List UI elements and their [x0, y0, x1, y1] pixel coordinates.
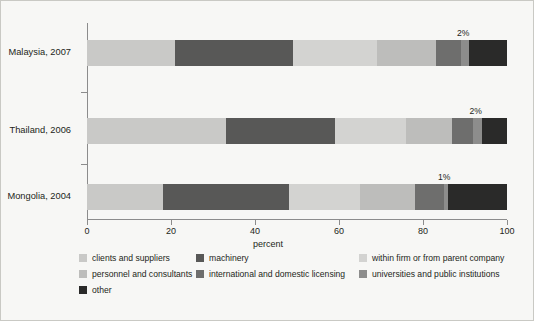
legend-swatch-icon: [196, 254, 204, 262]
bar-segment: [163, 184, 289, 210]
bar-segment: [406, 118, 452, 144]
y-tick: [81, 164, 87, 165]
x-tick: [171, 220, 172, 225]
x-tick-label: 20: [151, 227, 191, 236]
bar-segment: [87, 184, 163, 210]
bar-segment: [452, 118, 473, 144]
bar-segment: [461, 40, 469, 66]
legend-item: universities and public institutions: [359, 267, 504, 281]
x-tick: [423, 220, 424, 225]
bar-value-label: 1%: [438, 173, 450, 182]
legend-label: other: [92, 286, 112, 295]
bar-segment: [87, 40, 175, 66]
legend-column: machineryinternational and domestic lice…: [196, 251, 345, 283]
bar-segment: [226, 118, 335, 144]
legend-item: clients and suppliers: [79, 251, 192, 265]
bar-segment: [335, 118, 406, 144]
legend-label: within firm or from parent company: [372, 254, 504, 263]
bar-row: [87, 184, 507, 210]
x-tick-label: 80: [403, 227, 443, 236]
bar-segment: [377, 40, 436, 66]
chart-figure: Malaysia, 2007Thailand, 2006Mongolia, 20…: [0, 0, 534, 321]
legend-swatch-icon: [359, 254, 367, 262]
x-tick-label: 0: [67, 227, 107, 236]
bar-value-label: 2%: [457, 29, 469, 38]
legend-label: personnel and consultants: [92, 270, 192, 279]
legend-item: other: [79, 283, 192, 297]
bar-row: [87, 40, 507, 66]
bar-segment: [293, 40, 377, 66]
x-tick: [255, 220, 256, 225]
legend-item: machinery: [196, 251, 345, 265]
legend-label: clients and suppliers: [92, 254, 170, 263]
bar-row: [87, 118, 507, 144]
bar-segment: [482, 118, 507, 144]
legend-swatch-icon: [79, 286, 87, 294]
x-tick: [87, 220, 88, 225]
x-tick-label: 60: [319, 227, 359, 236]
bar-value-label: 2%: [470, 107, 482, 116]
legend-label: universities and public institutions: [372, 270, 500, 279]
legend-item: international and domestic licensing: [196, 267, 345, 281]
bar-segment: [469, 40, 507, 66]
bar-segment: [289, 184, 360, 210]
legend-item: personnel and consultants: [79, 267, 192, 281]
legend-swatch-icon: [196, 270, 204, 278]
bar-segment: [87, 118, 226, 144]
legend-swatch-icon: [79, 254, 87, 262]
x-tick: [507, 220, 508, 225]
x-axis-title: percent: [1, 239, 534, 249]
x-tick-label: 40: [235, 227, 275, 236]
legend-swatch-icon: [359, 270, 367, 278]
legend-item: within firm or from parent company: [359, 251, 504, 265]
category-label: Malaysia, 2007: [8, 48, 71, 57]
legend-column: within firm or from parent companyuniver…: [359, 251, 504, 283]
category-label: Thailand, 2006: [9, 126, 71, 135]
legend-column: clients and supplierspersonnel and consu…: [79, 251, 192, 299]
bar-segment: [360, 184, 415, 210]
legend-label: machinery: [209, 254, 249, 263]
bar-segment: [473, 118, 481, 144]
legend-swatch-icon: [79, 270, 87, 278]
category-label: Mongolia, 2004: [7, 192, 71, 201]
x-axis-line: [87, 219, 507, 220]
x-tick: [339, 220, 340, 225]
bar-segment: [436, 40, 461, 66]
legend-label: international and domestic licensing: [209, 270, 345, 279]
bar-segment: [175, 40, 293, 66]
bar-segment: [448, 184, 507, 210]
y-tick: [81, 92, 87, 93]
bar-segment: [415, 184, 444, 210]
x-tick-label: 100: [487, 227, 527, 236]
